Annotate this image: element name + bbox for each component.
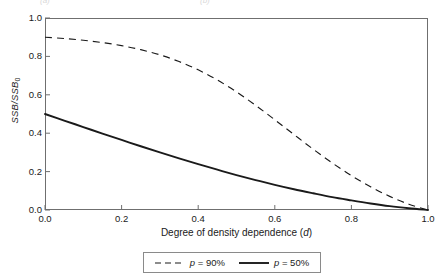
x-axis-title-text: Degree of density dependence [161,227,297,238]
x-axis-title-symbol: d [303,227,309,238]
y-tick-label-0.2: 0.2 [16,167,42,177]
legend-label-p-50: p = 50% [274,257,309,268]
legend-entry-p-90: p = 90% [155,257,225,268]
x-tick-label-0.6: 0.6 [268,213,281,224]
x-tick-label-0.2: 0.2 [115,213,128,224]
legend-value-p-90: = 90% [195,257,225,268]
y-tick-label-1.0: 1.0 [16,13,42,23]
legend-value-p-50: = 50% [279,257,309,268]
y-axis-title-subscript: 0 [14,77,21,81]
x-tick-label-1.0: 1.0 [421,213,434,224]
y-axis-title-text: SSB/SSB [9,81,20,123]
chart-figure: 0.00.20.40.60.81.0 0.00.20.40.60.81.0 SS… [0,0,447,280]
x-axis-tick-labels: 0.00.20.40.60.81.0 [45,213,428,227]
x-axis-title: Degree of density dependence (d) [45,227,428,238]
chart-legend: p = 90% p = 50% [143,252,321,273]
x-tick-label-0.4: 0.4 [192,213,205,224]
y-tick-label-0.8: 0.8 [16,51,42,61]
plot-area [45,18,428,210]
legend-swatch-dashed [155,259,185,267]
series-line-p-90 [45,37,428,210]
series-line-p-50 [45,114,428,210]
legend-entry-p-50: p = 50% [239,257,309,268]
x-tick-label-0.8: 0.8 [345,213,358,224]
legend-swatch-solid [239,259,269,267]
x-tick-label-0.0: 0.0 [38,213,51,224]
y-axis-title: SSB/SSB0 [9,65,22,135]
x-axis-tickmarks [45,205,428,210]
legend-label-p-90: p = 90% [190,257,225,268]
